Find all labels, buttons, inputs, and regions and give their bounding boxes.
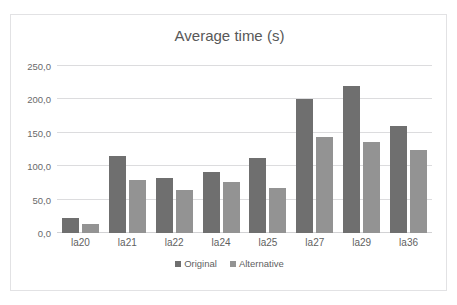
bar-original-la25[interactable] bbox=[249, 158, 266, 233]
x-axis-labels: la20la21la22la24la25la27la29la36 bbox=[57, 237, 432, 248]
bar-group bbox=[151, 66, 198, 233]
legend-item-alternative[interactable]: Alternative bbox=[230, 258, 284, 269]
y-axis-tick-label: 0,0 bbox=[5, 228, 51, 239]
legend-swatch-icon-original bbox=[175, 261, 181, 267]
bar-alternative-la20[interactable] bbox=[82, 224, 99, 233]
legend-swatch-icon-alternative bbox=[230, 261, 236, 267]
bar-original-la36[interactable] bbox=[390, 126, 407, 233]
chart-legend[interactable]: Original Alternative bbox=[11, 258, 448, 269]
bar-group bbox=[245, 66, 292, 233]
x-axis-tick-la27: la27 bbox=[291, 237, 338, 248]
y-axis-tick-label: 100,0 bbox=[5, 161, 51, 172]
legend-label-alternative: Alternative bbox=[239, 258, 284, 269]
bar-original-la29[interactable] bbox=[343, 86, 360, 233]
chart-container[interactable]: Average time (s) 0,050,0100,0150,0200,02… bbox=[10, 14, 447, 291]
bar-group bbox=[385, 66, 432, 233]
legend-item-original[interactable]: Original bbox=[175, 258, 217, 269]
bar-alternative-la29[interactable] bbox=[363, 142, 380, 233]
bar-original-la22[interactable] bbox=[156, 178, 173, 233]
bar-group bbox=[291, 66, 338, 233]
bar-original-la20[interactable] bbox=[62, 218, 79, 233]
x-axis-tick-la25: la25 bbox=[245, 237, 292, 248]
y-axis-tick-label: 50,0 bbox=[5, 194, 51, 205]
screenshot-page: Average time (s) 0,050,0100,0150,0200,02… bbox=[0, 0, 457, 305]
x-axis-tick-la24: la24 bbox=[198, 237, 245, 248]
bar-alternative-la25[interactable] bbox=[269, 188, 286, 233]
x-axis-tick-la29: la29 bbox=[338, 237, 385, 248]
bars-layer bbox=[57, 66, 432, 233]
bar-alternative-la27[interactable] bbox=[316, 137, 333, 233]
y-axis-tick-label: 150,0 bbox=[5, 127, 51, 138]
legend-label-original: Original bbox=[184, 258, 217, 269]
bar-group bbox=[198, 66, 245, 233]
bar-group bbox=[338, 66, 385, 233]
bar-alternative-la21[interactable] bbox=[129, 180, 146, 233]
x-axis-tick-la22: la22 bbox=[151, 237, 198, 248]
x-axis-tick-la20: la20 bbox=[57, 237, 104, 248]
bar-original-la27[interactable] bbox=[296, 99, 313, 233]
x-axis-tick-la21: la21 bbox=[104, 237, 151, 248]
y-axis-tick-label: 200,0 bbox=[5, 94, 51, 105]
bar-original-la24[interactable] bbox=[203, 172, 220, 233]
x-axis-tick-la36: la36 bbox=[385, 237, 432, 248]
bar-alternative-la36[interactable] bbox=[410, 150, 427, 234]
bar-alternative-la24[interactable] bbox=[223, 182, 240, 233]
cropped-text-artifact bbox=[0, 0, 457, 12]
chart-title: Average time (s) bbox=[11, 27, 448, 44]
bar-group bbox=[57, 66, 104, 233]
y-axis-tick-label: 250,0 bbox=[5, 61, 51, 72]
plot-area: 0,050,0100,0150,0200,0250,0 bbox=[57, 66, 432, 233]
bar-group bbox=[104, 66, 151, 233]
bar-alternative-la22[interactable] bbox=[176, 190, 193, 233]
bar-original-la21[interactable] bbox=[109, 156, 126, 233]
